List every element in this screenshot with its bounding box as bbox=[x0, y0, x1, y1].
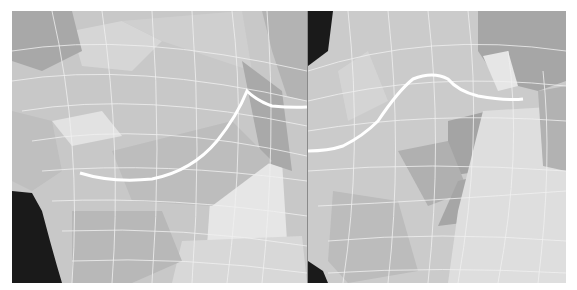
mesh-render-right bbox=[308, 11, 566, 283]
mesh-panel-right bbox=[308, 11, 566, 283]
mesh-render-left bbox=[12, 11, 307, 283]
mesh-panel-left bbox=[12, 11, 307, 283]
